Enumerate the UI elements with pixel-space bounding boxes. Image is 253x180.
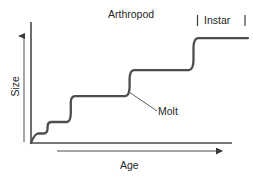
growth-curve xyxy=(31,38,248,143)
arthropod-growth-figure: Arthropod Instar Molt Age Size xyxy=(0,0,253,180)
instar-label: Instar xyxy=(204,15,230,26)
figure-title: Arthropod xyxy=(108,9,154,20)
figure-canvas xyxy=(0,0,253,180)
molt-leader-line xyxy=(129,92,157,111)
y-axis-label: Size xyxy=(10,66,21,106)
x-axis-label: Age xyxy=(120,160,139,171)
molt-label: Molt xyxy=(158,106,178,117)
